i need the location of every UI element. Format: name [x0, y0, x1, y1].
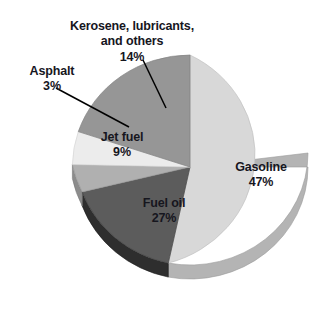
slice-label-fuel-oil-name: Fuel oil	[143, 196, 186, 210]
slice-label-jet-fuel: Jet fuel 9%	[88, 130, 156, 161]
slice-label-fuel-oil: Fuel oil 27%	[126, 196, 202, 227]
slice-value-fuel-oil: 27%	[126, 211, 202, 226]
slice-value-gasoline: 47%	[221, 175, 301, 190]
slice-value-asphalt: 3%	[12, 79, 92, 94]
slice-label-asphalt-name: Asphalt	[30, 64, 75, 78]
slice-label-kerosene: Kerosene, lubricants, and others 14%	[62, 19, 202, 65]
slice-value-jet-fuel: 9%	[88, 145, 156, 160]
pie-chart: Kerosene, lubricants, and others 14% Asp…	[0, 0, 324, 310]
slice-label-asphalt: Asphalt 3%	[12, 64, 92, 95]
slice-value-kerosene: 14%	[62, 50, 202, 65]
slice-label-gasoline: Gasoline 47%	[221, 160, 301, 191]
slice-label-kerosene-line1: Kerosene, lubricants,	[70, 19, 194, 33]
slice-label-gasoline-name: Gasoline	[235, 160, 287, 174]
slice-label-kerosene-line2: and others	[101, 34, 163, 48]
slice-label-jet-fuel-name: Jet fuel	[101, 130, 144, 144]
